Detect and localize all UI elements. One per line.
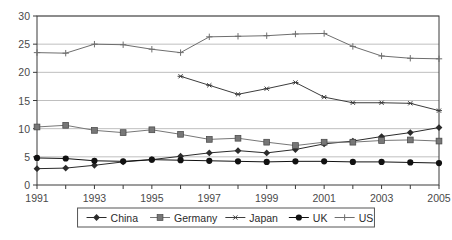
datapoint-germany-2003 [379, 138, 385, 144]
datapoint-germany-1991 [34, 124, 40, 130]
legend-label-japan: Japan [249, 212, 278, 224]
datapoint-uk-1991 [34, 155, 40, 161]
chart-canvas: 0510152025301991199319951997199920012003… [0, 0, 452, 240]
xtick-label-2003: 2003 [370, 192, 394, 204]
datapoint-germany-1995 [149, 127, 155, 133]
datapoint-uk-1999 [264, 159, 270, 165]
ytick-label-0: 0 [24, 179, 30, 191]
legend-marker-circle-icon [296, 214, 302, 220]
ytick-label-25: 25 [18, 38, 30, 50]
datapoint-germany-1992 [63, 122, 69, 128]
legend-label-uk: UK [313, 212, 328, 224]
xtick-label-1999: 1999 [255, 192, 279, 204]
datapoint-germany-2005 [436, 138, 442, 144]
datapoint-uk-1992 [63, 155, 69, 161]
xtick-label-1997: 1997 [198, 192, 222, 204]
datapoint-uk-2002 [350, 159, 356, 165]
xtick-label-1995: 1995 [140, 192, 164, 204]
datapoint-germany-2002 [350, 139, 356, 145]
datapoint-germany-1997 [206, 136, 212, 142]
legend-label-china: China [111, 212, 139, 224]
datapoint-germany-1999 [264, 139, 270, 145]
datapoint-germany-2004 [407, 137, 413, 143]
datapoint-uk-2003 [378, 159, 384, 165]
datapoint-germany-1994 [120, 130, 126, 136]
ytick-label-30: 30 [18, 10, 30, 22]
datapoint-uk-1998 [235, 158, 241, 164]
legend-label-germany: Germany [174, 212, 218, 224]
datapoint-uk-2000 [292, 158, 298, 164]
datapoint-uk-1994 [120, 158, 126, 164]
datapoint-uk-2005 [436, 160, 442, 166]
datapoint-uk-1995 [149, 157, 155, 163]
xtick-label-1993: 1993 [83, 192, 107, 204]
xtick-label-2001: 2001 [312, 192, 336, 204]
ytick-label-10: 10 [18, 123, 30, 135]
datapoint-germany-1998 [235, 135, 241, 141]
datapoint-uk-1997 [206, 158, 212, 164]
xtick-label-1991: 1991 [25, 192, 49, 204]
datapoint-uk-1996 [177, 157, 183, 163]
datapoint-uk-1993 [91, 158, 97, 164]
datapoint-germany-1993 [92, 127, 98, 133]
datapoint-uk-2004 [407, 159, 413, 165]
ytick-label-20: 20 [18, 66, 30, 78]
datapoint-uk-2001 [321, 158, 327, 164]
legend-label-us: US [359, 212, 374, 224]
line-chart: 0510152025301991199319951997199920012003… [0, 0, 452, 240]
ytick-label-15: 15 [18, 95, 30, 107]
datapoint-germany-2001 [321, 139, 327, 145]
legend-marker-square-icon [157, 215, 163, 221]
xtick-label-2005: 2005 [427, 192, 451, 204]
datapoint-germany-1996 [178, 131, 184, 137]
datapoint-germany-2000 [293, 143, 299, 149]
ytick-label-5: 5 [24, 151, 30, 163]
chart-legend: ChinaGermanyJapanUKUS [78, 208, 375, 227]
